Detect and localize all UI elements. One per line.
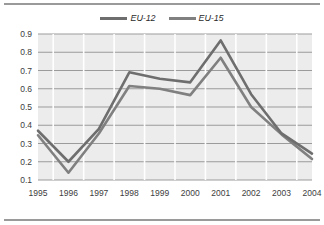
y-axis-tick-label: 0.6 (20, 84, 32, 94)
top-divider-rule (4, 3, 320, 5)
y-axis-tick-label: 0.1 (20, 175, 32, 185)
x-axis-tick-label: 2003 (272, 188, 291, 198)
chart-figure: EU-12 EU-15 0.90.80.70.60.50.40.30.20.1 … (0, 0, 324, 225)
x-axis-tick-label: 2000 (181, 188, 200, 198)
x-axis-tick-label: 1996 (59, 188, 78, 198)
chart-legend: EU-12 EU-15 (0, 13, 324, 23)
legend-item-series-0: EU-12 (100, 13, 155, 23)
x-axis-tick-label: 1995 (29, 188, 48, 198)
y-axis-tick-label: 0.4 (20, 120, 32, 130)
x-axis-tick-label: 1999 (150, 188, 169, 198)
x-axis-tick-labels: 1995199619971998199920002001200220032004 (29, 188, 322, 198)
legend-swatch-icon-series-1 (169, 17, 196, 20)
bottom-divider-rule (4, 219, 320, 221)
y-axis-tick-labels: 0.90.80.70.60.50.40.30.20.1 (20, 29, 32, 185)
legend-item-series-1: EU-15 (169, 13, 224, 23)
chart-svg: 0.90.80.70.60.50.40.30.20.1 199519961997… (0, 28, 324, 208)
x-axis-tick-label: 1997 (89, 188, 108, 198)
legend-label-series-0: EU-12 (130, 13, 155, 23)
x-axis-tick-label: 2004 (303, 188, 322, 198)
y-axis-tick-label: 0.5 (20, 102, 32, 112)
x-axis-tick-label: 1998 (120, 188, 139, 198)
y-axis-tick-label: 0.3 (20, 139, 32, 149)
y-axis-tick-label: 0.9 (20, 29, 32, 39)
y-axis-tick-label: 0.2 (20, 157, 32, 167)
y-axis-tick-label: 0.7 (20, 66, 32, 76)
legend-swatch-icon-series-0 (100, 17, 127, 20)
x-axis-tick-label: 2001 (211, 188, 230, 198)
y-axis-tick-label: 0.8 (20, 47, 32, 57)
legend-label-series-1: EU-15 (199, 13, 224, 23)
x-axis-tick-label: 2002 (242, 188, 261, 198)
plot-area: 0.90.80.70.60.50.40.30.20.1 199519961997… (0, 28, 324, 208)
